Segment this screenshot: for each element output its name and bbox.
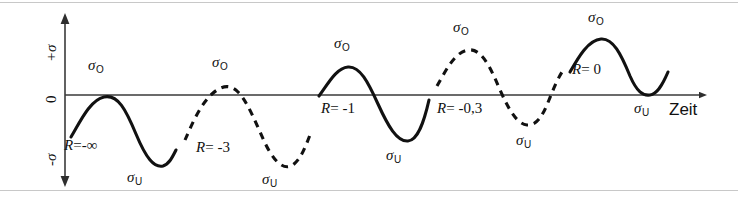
sigma-u-label-wave-1: σU xyxy=(127,170,142,185)
sigma-glyph: σ xyxy=(588,9,595,25)
sigma-subscript: O xyxy=(96,64,104,75)
sigma-u-label-wave-5: σU xyxy=(634,101,649,116)
sigma-subscript: U xyxy=(394,154,401,165)
sigma-subscript: O xyxy=(596,16,604,27)
y-axis-zero-label: 0 xyxy=(44,96,59,104)
r-value: -3 xyxy=(217,139,230,155)
sigma-glyph: σ xyxy=(262,171,269,187)
r-symbol: R xyxy=(437,100,446,116)
sigma-u-label-wave-3: σU xyxy=(386,148,401,163)
sigma-subscript: O xyxy=(342,42,350,53)
r-equals: = xyxy=(330,100,338,116)
y-axis-arrow-down xyxy=(61,176,70,187)
sigma-u-label-wave-2: σU xyxy=(262,172,277,187)
r-symbol: R xyxy=(572,61,581,77)
r-value: -∞ xyxy=(82,137,98,153)
r-symbol: R xyxy=(196,139,205,155)
sigma-glyph: σ xyxy=(212,54,219,70)
sigma-o-label-wave-2: σO xyxy=(212,55,227,70)
sigma-o-label-wave-1: σO xyxy=(88,58,103,73)
r-ratio-label-wave-4: R= -0,3 xyxy=(437,101,482,116)
plot-canvas xyxy=(0,0,738,199)
sigma-subscript: U xyxy=(524,139,531,150)
sigma-o-label-wave-5: σO xyxy=(588,10,603,25)
sigma-glyph: σ xyxy=(88,57,95,73)
r-symbol: R xyxy=(321,100,330,116)
sigma-glyph: σ xyxy=(453,19,460,35)
r-equals: = xyxy=(446,100,454,116)
sigma-o-label-wave-3: σO xyxy=(334,36,349,51)
r-equals: = xyxy=(73,137,81,153)
r-equals: = xyxy=(581,61,589,77)
stress-time-diagram: +σ 0 -σ Zeit σO σU R=-∞ σO σU R= -3 σO σ… xyxy=(0,0,738,199)
sigma-subscript: O xyxy=(461,26,469,37)
r-ratio-label-wave-3: R= -1 xyxy=(321,101,355,116)
r-symbol: R xyxy=(64,137,73,153)
x-axis-label: Zeit xyxy=(669,101,697,118)
r-ratio-label-wave-2: R= -3 xyxy=(196,140,230,155)
sigma-glyph: σ xyxy=(127,169,134,185)
wave-r-neg-infinity xyxy=(71,97,176,167)
y-axis-positive-label: +σ xyxy=(44,44,59,62)
r-value: 0 xyxy=(593,61,601,77)
r-ratio-label-wave-1: R=-∞ xyxy=(64,138,97,153)
sigma-u-label-wave-4: σU xyxy=(516,133,531,148)
sigma-o-label-wave-4: σO xyxy=(453,20,468,35)
r-value: -0,3 xyxy=(458,100,482,116)
sigma-glyph: σ xyxy=(516,132,523,148)
sigma-glyph: σ xyxy=(334,35,341,51)
r-value: -1 xyxy=(342,100,355,116)
sigma-subscript: O xyxy=(220,61,228,72)
r-ratio-label-wave-5: R= 0 xyxy=(572,62,601,77)
y-axis xyxy=(61,13,70,187)
sigma-glyph: σ xyxy=(634,100,641,116)
r-equals: = xyxy=(205,139,213,155)
y-axis-arrow-up xyxy=(61,13,70,24)
sigma-subscript: U xyxy=(642,107,649,118)
sigma-subscript: U xyxy=(135,176,142,187)
y-axis-negative-label: -σ xyxy=(44,154,59,166)
sigma-subscript: U xyxy=(270,178,277,189)
sigma-glyph: σ xyxy=(386,147,393,163)
